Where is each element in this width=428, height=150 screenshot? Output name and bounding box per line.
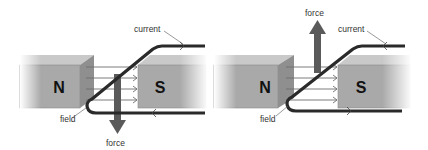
current-label: current — [338, 24, 365, 34]
field-label: field — [260, 114, 276, 124]
current-leader-line — [164, 31, 183, 44]
south-pole-label: S — [155, 79, 166, 96]
current-label: current — [134, 24, 161, 34]
north-magnet: N — [214, 54, 294, 109]
motor-effect-diagram: N S — [0, 0, 428, 150]
current-leader-line — [367, 31, 386, 44]
north-magnet: N — [20, 54, 94, 109]
force-label: force — [305, 8, 324, 18]
panel-left: N S — [20, 24, 208, 148]
field-label: field — [60, 114, 76, 124]
north-pole-label: N — [259, 79, 271, 96]
south-magnet: S — [338, 54, 412, 109]
force-arrow-up-icon — [309, 20, 326, 73]
north-pole-label: N — [53, 79, 65, 96]
panel-right: N S — [214, 8, 412, 124]
south-magnet: S — [138, 54, 208, 109]
north-magnet-fade — [20, 54, 80, 109]
diagram-stage: N S — [0, 0, 428, 150]
south-pole-label: S — [356, 79, 367, 96]
south-magnet-fade — [338, 54, 412, 109]
south-magnet-fade — [138, 54, 208, 109]
force-label: force — [106, 138, 125, 148]
